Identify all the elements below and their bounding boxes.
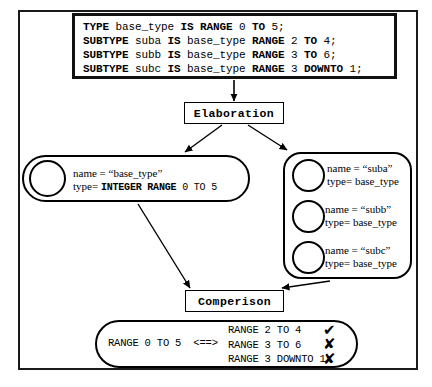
- comparison-result-row: RANGE 3 TO 6✘: [228, 338, 335, 353]
- code-keyword: TO: [252, 21, 272, 33]
- code-keyword: IS: [168, 63, 188, 75]
- code-keyword: SUBTYPE: [83, 63, 135, 75]
- base-type-object-circle: [29, 160, 66, 197]
- result-left-range: RANGE 0 TO 5: [108, 337, 181, 349]
- subtype-name-line: name = “suba”: [327, 162, 399, 175]
- equivalence-operator-icon: <==>: [193, 337, 217, 349]
- code-keyword: TO: [304, 49, 324, 61]
- code-line: TYPE base_type IS RANGE 0 TO 5;: [83, 20, 394, 34]
- comparison-range-text: RANGE 2 TO 4: [228, 324, 323, 336]
- code-token: base_type: [187, 49, 252, 61]
- cross-icon: ✘: [323, 352, 335, 367]
- code-keyword: IS: [168, 35, 188, 47]
- result-left-operand: RANGE 0 TO 5 <==>: [108, 337, 218, 349]
- code-keyword: TO: [304, 35, 324, 47]
- code-token: 0: [239, 21, 252, 33]
- code-keyword: DOWNTO: [304, 63, 350, 75]
- subtype-name-line: name = “subc”: [325, 244, 397, 257]
- comparison-result-row: RANGE 3 DOWNTO 1✘: [228, 352, 335, 367]
- code-keyword: SUBTYPE: [83, 49, 135, 61]
- code-token: subb: [135, 49, 168, 61]
- subtype-suba-text: name = “suba” type= base_type: [327, 162, 399, 187]
- code-token: 4;: [324, 35, 337, 47]
- code-line: SUBTYPE subb IS base_type RANGE 3 TO 6;: [83, 48, 394, 62]
- vhdl-code-box: TYPE base_type IS RANGE 0 TO 5; SUBTYPE …: [72, 13, 397, 79]
- code-token: base_type: [187, 35, 252, 47]
- subtype-subb-circle: [292, 200, 325, 233]
- code-line: SUBTYPE suba IS base_type RANGE 2 TO 4;: [83, 34, 394, 48]
- code-keyword: RANGE: [252, 49, 291, 61]
- code-keyword: TYPE: [83, 21, 116, 33]
- code-token: 6;: [324, 49, 337, 61]
- code-token: 2: [291, 35, 304, 47]
- comparison-process-box: Comperison: [185, 290, 284, 312]
- comparison-result-rows: RANGE 2 TO 4✔RANGE 3 TO 6✘RANGE 3 DOWNTO…: [228, 323, 335, 367]
- base-type-type-value: 0 TO 5: [176, 182, 217, 193]
- comparison-range-text: RANGE 3 DOWNTO 1: [228, 353, 323, 365]
- elaboration-process-box: Elaboration: [184, 102, 284, 124]
- subtype-type-line: type= base_type: [327, 175, 399, 188]
- subtype-type-line: type= base_type: [325, 257, 397, 270]
- code-keyword: IS: [168, 49, 188, 61]
- code-line: SUBTYPE subc IS base_type RANGE 3 DOWNTO…: [83, 62, 394, 76]
- code-token: 3: [291, 63, 304, 75]
- subtype-subb-text: name = “subb” type= base_type: [325, 203, 397, 228]
- code-token: subc: [135, 63, 168, 75]
- code-token: 5;: [272, 21, 285, 33]
- code-token: suba: [135, 35, 168, 47]
- subtype-suba-circle: [292, 159, 325, 192]
- subtype-type-line: type= base_type: [325, 216, 397, 229]
- subtype-subc-circle: [292, 241, 325, 274]
- code-keyword: SUBTYPE: [83, 35, 135, 47]
- subtype-subc-text: name = “subc” type= base_type: [325, 244, 397, 269]
- code-token: base_type: [187, 63, 252, 75]
- code-keyword: IS RANGE: [181, 21, 240, 33]
- code-keyword: RANGE: [252, 63, 291, 75]
- comparison-result-row: RANGE 2 TO 4✔: [228, 323, 335, 338]
- base-type-object-text: name = “base_type” type= INTEGER RANGE 0…: [73, 167, 217, 194]
- code-token: base_type: [116, 21, 181, 33]
- comparison-range-text: RANGE 3 TO 6: [228, 339, 323, 351]
- diagram-canvas: TYPE base_type IS RANGE 0 TO 5; SUBTYPE …: [0, 0, 432, 387]
- subtype-name-line: name = “subb”: [325, 203, 397, 216]
- code-token: 3: [291, 49, 304, 61]
- code-keyword: RANGE: [252, 35, 291, 47]
- base-type-type-line: type= INTEGER RANGE 0 TO 5: [73, 180, 217, 195]
- base-type-name-line: name = “base_type”: [73, 167, 217, 180]
- base-type-type-prefix: type=: [73, 180, 101, 192]
- code-token: 1;: [350, 63, 363, 75]
- base-type-type-keyword: INTEGER RANGE: [101, 182, 176, 193]
